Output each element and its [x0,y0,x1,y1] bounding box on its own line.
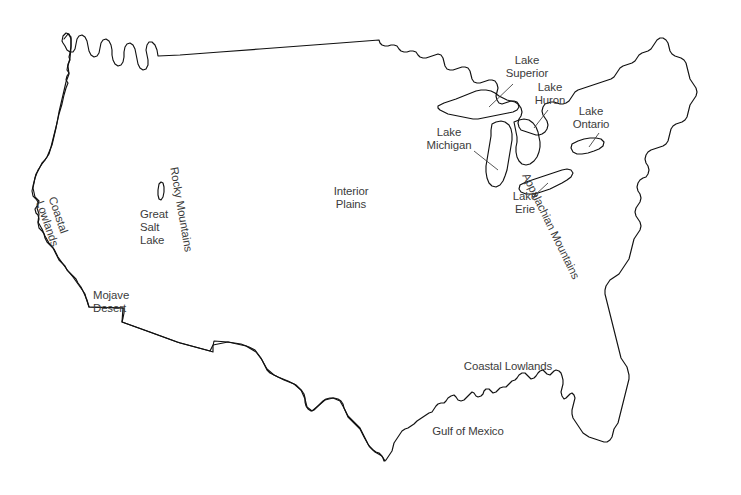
us-mainland-outline [32,33,697,461]
label-great-salt-lake: Great Salt Lake [140,208,188,248]
label-lake-michigan: Lake Michigan [420,126,478,152]
map-outline-svg [0,0,741,495]
label-lake-huron: Lake Huron [524,81,576,107]
us-border-main [33,34,385,461]
label-interior-plains: Interior Plains [325,185,377,211]
label-coastal-lowlands-south: Coastal Lowlands [455,360,561,373]
leader-lake-ontario [589,133,599,147]
label-lake-ontario: Lake Ontario [565,105,617,131]
lake-superior-outline [438,90,519,119]
label-lake-superior: Lake Superior [498,54,556,80]
lake-ontario-outline [571,138,604,154]
lake-michigan-outline [486,121,512,187]
label-gulf-of-mexico: Gulf of Mexico [420,425,516,438]
great-salt-lake-outline [158,182,164,200]
label-mojave-desert: Mojave Desert [93,289,153,315]
us-physical-features-map: Lake Superior Lake Huron Lake Ontario La… [0,0,741,495]
